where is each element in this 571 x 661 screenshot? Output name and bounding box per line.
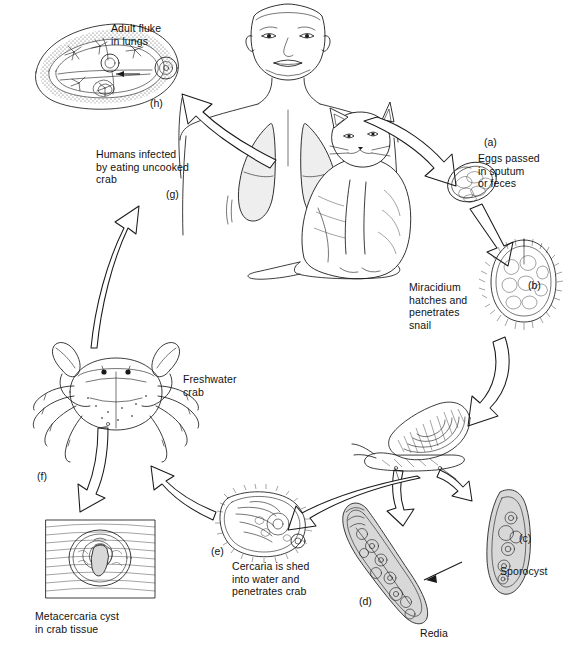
crab-claw-right <box>142 343 180 407</box>
label-eggs: Eggs passed in sputum or feces <box>478 152 540 190</box>
label-humans-infected: Humans infected by eating uncooked crab <box>96 148 189 186</box>
arrow-snail-to-sporocyst <box>437 468 472 501</box>
tag-g: (g) <box>166 188 179 200</box>
crab-illustration <box>33 343 199 462</box>
tag-e: (e) <box>211 545 224 557</box>
arrow-miracidium-to-snail <box>468 337 509 426</box>
arrow-sporocyst-to-redia <box>424 562 462 583</box>
arrow-human-to-lung <box>182 94 276 168</box>
label-crab: Freshwater crab <box>183 373 237 398</box>
arrow-crab-to-cyst <box>78 426 108 512</box>
life-cycle-diagram: Adult fluke in lungs (h) Humans infected… <box>0 0 571 661</box>
tag-h: (h) <box>150 97 163 109</box>
snail-illustration <box>352 402 470 471</box>
label-metacercaria: Metacercaria cyst in crab tissue <box>35 610 119 635</box>
tag-b: (b) <box>528 279 541 291</box>
label-redia: Redia <box>420 627 448 640</box>
label-sporocyst: Sporocyst <box>500 565 548 578</box>
arrow-eggs-to-miracidium <box>470 204 513 266</box>
arrow-snail-to-redia <box>387 468 414 526</box>
tag-c: (c) <box>519 532 531 544</box>
tag-f: (f) <box>37 470 47 482</box>
tag-d: (d) <box>359 595 372 607</box>
crab-claw-left <box>52 343 90 407</box>
label-miracidium: Miracidium hatches and penetrates snail <box>409 281 467 331</box>
metacercaria-cyst-illustration <box>46 520 155 598</box>
tag-a: (a) <box>484 136 497 148</box>
arrow-cercaria-to-crab <box>151 466 216 520</box>
label-adult-fluke: Adult fluke in lungs <box>111 22 161 47</box>
arrow-crab-to-human <box>91 206 139 348</box>
label-cercaria: Cercaria is shed into water and penetrat… <box>232 560 309 598</box>
redia-illustration <box>343 503 428 624</box>
